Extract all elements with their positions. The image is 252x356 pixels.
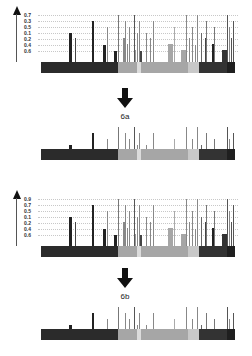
- base-segment: [141, 149, 188, 160]
- spike-bar: [197, 199, 198, 246]
- spike-bar: [233, 205, 234, 246]
- spike-bar: [146, 33, 147, 62]
- spike-bar: [125, 205, 126, 246]
- spike-bar: [233, 313, 234, 329]
- spike-bar: [186, 307, 187, 329]
- spike-bar: [229, 27, 230, 62]
- spike-bar: [206, 21, 207, 62]
- spike-bar: [206, 133, 207, 149]
- spike-bar: [174, 211, 175, 246]
- spike-bar: [140, 51, 142, 62]
- spike-bar: [107, 27, 108, 62]
- base-segment: [41, 329, 118, 340]
- spike-bar: [114, 235, 117, 246]
- spike-bar: [197, 127, 198, 149]
- spike-bar: [114, 51, 117, 62]
- base-segment: [118, 149, 137, 160]
- spike-bar: [134, 127, 135, 149]
- spike-bar: [153, 133, 154, 149]
- base-segment: [41, 246, 118, 257]
- spike-bar: [92, 313, 94, 329]
- gridline: [38, 235, 238, 236]
- down-arrow-icon: [117, 88, 133, 108]
- spike-bar: [129, 139, 130, 149]
- base-segment: [188, 329, 199, 340]
- spike-bar: [125, 21, 126, 62]
- base-segment: [141, 62, 188, 73]
- spike-bar: [201, 33, 202, 62]
- base-segment: [141, 246, 188, 257]
- y-tick-label: 0.6: [24, 49, 31, 54]
- spike-bar: [92, 21, 94, 62]
- spike-bar: [139, 313, 140, 329]
- base-segment: [227, 246, 235, 257]
- base-segment: [188, 149, 199, 160]
- spike-bar: [227, 15, 228, 62]
- spike-bar: [229, 211, 230, 246]
- spike-bar: [140, 235, 142, 246]
- base-segment: [199, 62, 227, 73]
- spike-bar: [146, 217, 147, 246]
- gridline: [38, 15, 238, 16]
- spike-bar: [229, 139, 230, 149]
- spike-bar: [174, 319, 175, 329]
- result-panel-b: [0, 305, 252, 350]
- spike-bar: [129, 27, 130, 62]
- y-axis-arrow-icon: [13, 190, 21, 199]
- spike-bar: [69, 33, 72, 62]
- gridline: [38, 45, 238, 46]
- spike-bar: [134, 199, 135, 246]
- gridline: [38, 39, 238, 40]
- spike-bar: [192, 27, 193, 62]
- spike-bar: [129, 319, 130, 329]
- spike-bar: [107, 319, 108, 329]
- spike-bar: [127, 44, 128, 62]
- base-segment: [227, 329, 235, 340]
- base-bar: [41, 329, 235, 340]
- spike-bar: [153, 205, 154, 246]
- spike-bar: [192, 211, 193, 246]
- spike-bar: [75, 38, 76, 62]
- spike-bar: [174, 139, 175, 149]
- base-segment: [188, 246, 199, 257]
- spike-bar: [214, 319, 215, 329]
- spike-bar: [206, 205, 207, 246]
- gridline: [38, 217, 238, 218]
- base-segment: [41, 62, 118, 73]
- spike-bar: [92, 133, 94, 149]
- spike-bar: [92, 205, 94, 246]
- spike-bar: [103, 45, 106, 62]
- spike-bar: [186, 127, 187, 149]
- spike-bar: [231, 222, 232, 246]
- gridline: [38, 21, 238, 22]
- base-bar: [41, 246, 235, 257]
- base-bar: [41, 149, 235, 160]
- spike-bar: [227, 307, 228, 329]
- spike-bar: [103, 229, 106, 246]
- y-tick-label: 0.6: [24, 233, 31, 238]
- y-axis-arrow-icon: [13, 6, 21, 15]
- spike-bar: [195, 229, 196, 246]
- spike-bar: [186, 15, 187, 62]
- spike-bar: [153, 21, 154, 62]
- chart-panel-2: 0.90.70.50.10.20.40.6: [0, 180, 252, 260]
- base-segment: [118, 329, 137, 340]
- gridline: [38, 211, 238, 212]
- base-segment: [227, 62, 235, 73]
- spike-bar: [168, 44, 173, 62]
- spike-bar: [174, 27, 175, 62]
- spike-bar: [75, 222, 76, 246]
- spike-bar: [227, 199, 228, 246]
- base-segment: [141, 329, 188, 340]
- spike-bar: [214, 27, 215, 62]
- gridline: [38, 229, 238, 230]
- spike-bar: [129, 211, 130, 246]
- spike-bar: [233, 21, 234, 62]
- spike-bar: [227, 127, 228, 149]
- gridline: [38, 205, 238, 206]
- base-segment: [118, 246, 137, 257]
- spike-bar: [195, 45, 196, 62]
- spike-bar: [231, 38, 232, 62]
- spike-bar: [69, 217, 72, 246]
- spike-bar: [118, 307, 119, 329]
